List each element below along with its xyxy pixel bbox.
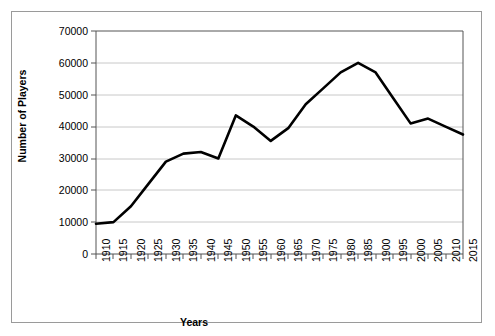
x-tick-label: 1915	[117, 239, 129, 262]
x-tick-label: 2015	[467, 239, 479, 262]
x-tick-label: 1945	[222, 239, 234, 262]
x-tick-label: 1900	[380, 239, 392, 262]
plot-area	[0, 0, 495, 336]
x-tick-label: 1965	[292, 239, 304, 262]
x-tick-label: 1935	[187, 239, 199, 262]
x-tick-label: 2010	[450, 239, 462, 262]
x-tick-label: 1930	[170, 239, 182, 262]
x-tick-label: 1955	[257, 239, 269, 262]
x-tick-label: 2005	[432, 239, 444, 262]
x-tick-label: 1910	[100, 239, 112, 262]
x-tick-label: 1980	[345, 239, 357, 262]
x-tick-label: 1950	[240, 239, 252, 262]
line-chart: Number of Players 70000 60000 50000 4000…	[0, 0, 495, 336]
x-tick-label: 1940	[205, 239, 217, 262]
x-tick-label: 1960	[275, 239, 287, 262]
x-tick-label: 1925	[152, 239, 164, 262]
x-tick-label: 1995	[397, 239, 409, 262]
x-tick-label: 1975	[327, 239, 339, 262]
plot-border	[96, 31, 463, 254]
x-tick-label: 1985	[362, 239, 374, 262]
x-tick-label: 1970	[310, 239, 322, 262]
gridlines	[96, 63, 463, 222]
x-axis-title: Years	[180, 316, 208, 328]
x-tick-label: 1920	[135, 239, 147, 262]
x-tick-label: 2000	[415, 239, 427, 262]
data-series-line	[96, 63, 463, 224]
y-axis-ticks	[91, 31, 96, 254]
